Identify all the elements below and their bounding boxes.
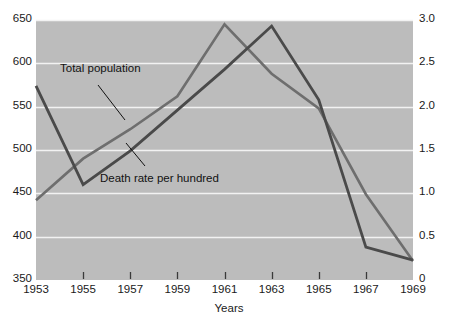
annotation-death-rate: Death rate per hundred [100,172,219,184]
chart-overlay [0,0,458,327]
x-axis-tick-label: 1963 [252,283,292,295]
x-axis-tick-label: 1955 [63,283,103,295]
data-series-lines [36,24,413,261]
axis-tick-marks [84,272,367,279]
x-axis-title: Years [0,302,458,314]
x-axis-tick-label: 1957 [110,283,150,295]
y-axis-left-tick-label: 450 [0,185,32,197]
y-axis-left-tick-label: 650 [0,12,32,24]
x-axis-tick-label: 1967 [346,283,386,295]
x-axis-tick-label: 1959 [157,283,197,295]
y-axis-right-tick-label: 3.0 [419,12,449,24]
y-axis-right-tick-label: 2.0 [419,99,449,111]
y-axis-left-tick-label: 550 [0,99,32,111]
y-axis-right-tick-label: 1.0 [419,185,449,197]
x-axis-tick-label: 1953 [16,283,56,295]
y-axis-right-tick-label: 2.5 [419,55,449,67]
gridlines [36,21,413,238]
x-axis-tick-label: 1969 [393,283,433,295]
x-axis-tick-label: 1965 [299,283,339,295]
y-axis-left-tick-label: 500 [0,142,32,154]
annotation-leader-lines [98,85,145,166]
y-axis-left-tick-label: 400 [0,229,32,241]
line-chart: 350400450500550600650 00.51.01.52.02.53.… [0,0,458,327]
y-axis-left-tick-label: 600 [0,55,32,67]
x-axis-tick-label: 1961 [205,283,245,295]
y-axis-right-tick-label: 1.5 [419,142,449,154]
y-axis-right-tick-label: 0.5 [419,229,449,241]
annotation-total-population: Total population [60,62,141,74]
